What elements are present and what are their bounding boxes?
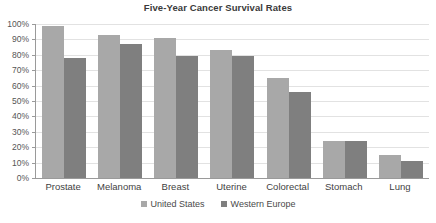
y-axis-tick-label: 60% — [12, 81, 29, 90]
bar-group — [317, 24, 373, 178]
bar — [345, 141, 367, 178]
bar-chart: Five-Year Cancer Survival Rates 0%10%20%… — [0, 0, 436, 223]
y-axis-tick-label: 100% — [7, 20, 29, 29]
bar-group — [204, 24, 260, 178]
y-axis-tick-label: 0% — [17, 174, 29, 183]
bar — [42, 26, 64, 178]
y-axis-tick-label: 20% — [12, 143, 29, 152]
bar — [323, 141, 345, 178]
bar-group — [261, 24, 317, 178]
legend-label: Western Europe — [231, 199, 296, 209]
bar — [401, 161, 423, 178]
y-axis-tick-label: 90% — [12, 35, 29, 44]
y-axis-tick-mark — [32, 178, 36, 179]
legend-label: United States — [151, 199, 205, 209]
y-axis-tick-label: 70% — [12, 66, 29, 75]
x-axis-tick-label: Prostate — [35, 180, 91, 196]
x-axis-tick-label: Stomach — [316, 180, 372, 196]
y-axis-tick-label: 10% — [12, 158, 29, 167]
bar — [289, 92, 311, 178]
plot-area — [35, 24, 429, 179]
x-axis-tick-label: Melanoma — [91, 180, 147, 196]
bar-group — [148, 24, 204, 178]
y-axis: 0%10%20%30%40%50%60%70%80%90%100% — [0, 17, 33, 185]
bar-group — [36, 24, 92, 178]
bar-group — [92, 24, 148, 178]
bar — [64, 58, 86, 178]
x-axis-tick-label: Uterine — [203, 180, 259, 196]
legend-item[interactable]: United States — [141, 199, 205, 209]
bar — [267, 78, 289, 178]
legend-swatch-icon — [141, 201, 147, 207]
y-axis-tick-label: 40% — [12, 112, 29, 121]
legend-item[interactable]: Western Europe — [221, 199, 296, 209]
bar — [210, 50, 232, 178]
bar — [98, 35, 120, 178]
bar — [379, 155, 401, 178]
bar — [120, 44, 142, 178]
x-axis: ProstateMelanomaBreastUterineColorectalS… — [35, 180, 428, 196]
x-axis-tick-label: Lung — [372, 180, 428, 196]
legend-swatch-icon — [221, 201, 227, 207]
bar-group — [373, 24, 429, 178]
y-axis-tick-label: 80% — [12, 50, 29, 59]
x-axis-tick-label: Colorectal — [260, 180, 316, 196]
bar — [154, 38, 176, 178]
bar — [176, 56, 198, 178]
y-axis-tick-label: 30% — [12, 127, 29, 136]
bar — [232, 56, 254, 178]
bars-layer — [36, 24, 429, 178]
chart-legend: United StatesWestern Europe — [0, 199, 436, 209]
y-axis-tick-label: 50% — [12, 97, 29, 106]
x-axis-tick-label: Breast — [147, 180, 203, 196]
chart-title: Five-Year Cancer Survival Rates — [0, 2, 436, 13]
